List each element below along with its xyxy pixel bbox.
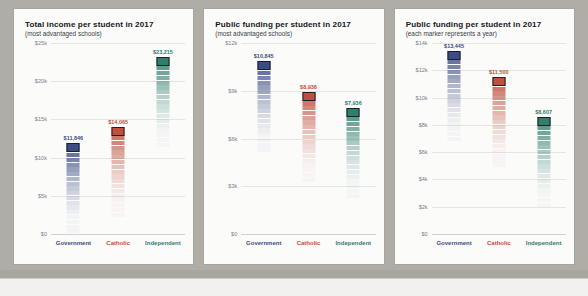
data-marker bbox=[448, 70, 461, 74]
data-marker bbox=[112, 189, 125, 193]
series-government[interactable]: $10,845Government bbox=[241, 43, 286, 234]
y-axis-tick-label: $3k bbox=[228, 183, 237, 189]
marker-stack[interactable] bbox=[492, 77, 505, 234]
data-marker bbox=[257, 114, 270, 118]
data-marker bbox=[448, 122, 461, 126]
data-marker bbox=[302, 101, 315, 105]
marker-stack[interactable] bbox=[156, 57, 169, 234]
marker-stack[interactable] bbox=[257, 61, 270, 234]
data-marker bbox=[448, 65, 461, 69]
data-marker bbox=[67, 229, 80, 233]
data-marker bbox=[156, 95, 169, 99]
data-marker bbox=[112, 179, 125, 183]
data-marker bbox=[347, 156, 360, 160]
data-marker bbox=[257, 119, 270, 123]
marker-stack[interactable] bbox=[67, 143, 80, 234]
data-marker bbox=[112, 136, 125, 140]
data-marker bbox=[257, 90, 270, 94]
value-label: $11,500 bbox=[489, 69, 509, 75]
x-axis-category-label: Catholic bbox=[487, 240, 511, 246]
data-marker bbox=[347, 179, 360, 183]
y-axis-tick-label: $4k bbox=[419, 176, 428, 182]
data-marker bbox=[492, 101, 505, 105]
marker-stack[interactable] bbox=[347, 108, 360, 234]
data-marker bbox=[67, 215, 80, 219]
series-catholic[interactable]: $8,938Catholic bbox=[286, 43, 331, 234]
data-marker bbox=[112, 165, 125, 169]
data-marker bbox=[112, 194, 125, 198]
data-marker bbox=[156, 114, 169, 118]
data-marker bbox=[156, 109, 169, 113]
series-government[interactable]: $11,846Government bbox=[51, 43, 96, 234]
chart-panel-public-funding-by-year: Public funding per student in 2017 (each… bbox=[395, 9, 574, 264]
gridline bbox=[432, 234, 566, 235]
data-marker bbox=[537, 174, 550, 178]
data-marker bbox=[112, 150, 125, 154]
chart-panel-group: Total income per student in 2017 (most a… bbox=[14, 9, 574, 264]
value-label: $13,445 bbox=[444, 43, 464, 49]
value-label: $14,065 bbox=[108, 119, 128, 125]
data-marker bbox=[257, 147, 270, 151]
data-marker bbox=[67, 158, 80, 162]
data-marker bbox=[448, 84, 461, 88]
marker-stack[interactable] bbox=[448, 51, 461, 234]
series-container: $10,845Government$8,938Catholic$7,936Ind… bbox=[241, 43, 375, 234]
data-marker bbox=[537, 131, 550, 135]
x-axis-category-label: Government bbox=[436, 240, 471, 246]
data-marker bbox=[67, 163, 80, 167]
data-marker bbox=[67, 205, 80, 209]
panel-subtitle: (each marker represents a year) bbox=[406, 30, 568, 37]
marker-stack[interactable] bbox=[302, 92, 315, 234]
gridline bbox=[51, 234, 185, 235]
data-marker bbox=[537, 145, 550, 149]
data-marker bbox=[257, 76, 270, 80]
chart-panel-public-funding-advantaged: Public funding per student in 2017 (most… bbox=[204, 9, 383, 264]
data-marker bbox=[67, 225, 80, 229]
series-catholic[interactable]: $11,500Catholic bbox=[476, 43, 521, 234]
data-marker bbox=[257, 124, 270, 128]
data-marker bbox=[257, 104, 270, 108]
series-catholic[interactable]: $14,065Catholic bbox=[96, 43, 141, 234]
data-marker bbox=[302, 111, 315, 115]
data-marker bbox=[302, 168, 315, 172]
data-marker bbox=[492, 144, 505, 148]
panel-title: Public funding per student in 2017 bbox=[406, 20, 566, 29]
plot-area: $0$3k$6k$9k$12k$10,845Government$8,938Ca… bbox=[241, 43, 375, 234]
data-marker bbox=[448, 132, 461, 136]
data-marker bbox=[156, 81, 169, 85]
data-marker bbox=[302, 125, 315, 129]
data-marker bbox=[156, 57, 169, 66]
marker-stack[interactable] bbox=[112, 127, 125, 234]
data-marker bbox=[156, 90, 169, 94]
panel-title: Total income per student in 2017 bbox=[25, 20, 185, 29]
data-marker bbox=[67, 196, 80, 200]
data-marker bbox=[492, 125, 505, 129]
marker-stack[interactable] bbox=[537, 117, 550, 234]
data-marker bbox=[448, 98, 461, 102]
data-marker bbox=[257, 81, 270, 85]
data-marker bbox=[448, 94, 461, 98]
y-axis-tick-label: $0 bbox=[41, 231, 47, 237]
data-marker bbox=[67, 191, 80, 195]
data-marker bbox=[492, 120, 505, 124]
data-marker bbox=[257, 128, 270, 132]
data-marker bbox=[302, 144, 315, 148]
series-independent[interactable]: $8,607Independent bbox=[521, 43, 566, 234]
data-marker bbox=[302, 149, 315, 153]
data-marker bbox=[112, 141, 125, 145]
series-independent[interactable]: $7,936Independent bbox=[331, 43, 376, 234]
data-marker bbox=[67, 182, 80, 186]
data-marker bbox=[347, 194, 360, 198]
x-axis-category-label: Catholic bbox=[106, 240, 130, 246]
data-marker bbox=[492, 87, 505, 91]
series-independent[interactable]: $23,215Independent bbox=[141, 43, 186, 234]
data-marker bbox=[302, 159, 315, 163]
data-marker bbox=[302, 178, 315, 182]
series-government[interactable]: $13,445Government bbox=[432, 43, 477, 234]
panel-title: Public funding per student in 2017 bbox=[215, 20, 375, 29]
data-marker bbox=[492, 163, 505, 167]
data-marker bbox=[347, 175, 360, 179]
data-marker bbox=[537, 169, 550, 173]
data-marker bbox=[347, 136, 360, 140]
data-marker bbox=[448, 127, 461, 131]
